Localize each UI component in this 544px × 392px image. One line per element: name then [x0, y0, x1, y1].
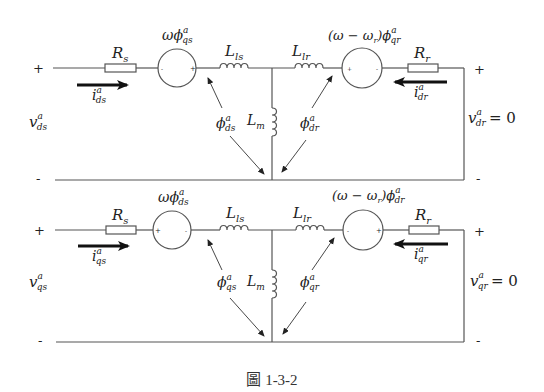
- stator-resistance-label: Rs: [111, 206, 128, 226]
- rotor-source-left-sign: +: [347, 65, 352, 72]
- stator-leakage-inductor: [220, 226, 248, 231]
- rotor-voltage-label: vaqr= 0: [470, 270, 518, 291]
- stator-flux-label: ϕaqs: [217, 272, 237, 292]
- stator-leakage-inductor: [220, 64, 248, 69]
- rotor-resistance-label: Rr: [414, 206, 432, 226]
- rotor-minus-terminal: -: [476, 333, 480, 348]
- stator-plus-terminal: +: [33, 61, 44, 76]
- rotor-resistance-label: Rr: [413, 44, 431, 64]
- stator-source-right-sign: +: [190, 65, 196, 73]
- rotor-minus-terminal: -: [476, 171, 480, 186]
- rotor-leakage-label: Llr: [291, 42, 311, 62]
- rotor-resistor: [409, 226, 439, 234]
- rotor-current-label: iaqr: [414, 244, 429, 264]
- rotor-leakage-label: Llr: [292, 204, 312, 224]
- stator-voltage-label: vaqs: [29, 271, 48, 292]
- stator-source-left-sign: +: [155, 227, 161, 235]
- rotor-plus-terminal: +: [474, 62, 485, 77]
- rotor-leakage-inductor: [295, 64, 323, 69]
- stator-current-label: iads: [92, 85, 107, 105]
- rotor-voltage-label: vadr= 0: [468, 107, 516, 128]
- magnetizing-inductor: [272, 108, 277, 136]
- magnetizing-inductance-label: Lm: [246, 112, 265, 131]
- rotor-flux-label: ϕadr: [300, 113, 320, 133]
- rotor-flux-label: ϕaqr: [300, 272, 320, 292]
- stator-leakage-label: Lls: [225, 204, 244, 224]
- rotor-source-right-sign: -: [376, 65, 378, 72]
- stator-flux-arrow-down: [230, 136, 264, 174]
- stator-resistor: [105, 64, 136, 72]
- stator-plus-terminal: +: [34, 223, 45, 238]
- rotor-flux-arrow-down: [283, 302, 306, 334]
- figure-caption: 圖 1-3-2: [0, 368, 544, 389]
- stator-flux-arrow-down: [230, 298, 264, 336]
- stator-source-label: ωϕads: [158, 187, 189, 207]
- stator-flux-arrow-up: [208, 240, 222, 270]
- magnetizing-inductor: [272, 270, 277, 298]
- rotor-source-right-sign: +: [376, 227, 382, 235]
- stator-minus-terminal: -: [36, 171, 40, 186]
- stator-leakage-label: Lls: [224, 42, 243, 62]
- stator-current-label: iaqs: [92, 246, 107, 266]
- stator-source-left-sign: -: [161, 65, 163, 72]
- rotor-source-label: (ω − ωr)ϕaqr: [328, 25, 401, 45]
- rotor-flux-arrow-down: [282, 140, 306, 172]
- stator-source-right-sign: -: [185, 227, 187, 234]
- equivalent-circuit-diagram: - + + - + - + - Rs ωϕaqs Lls Llr (ω − ωr…: [0, 0, 544, 392]
- rotor-flux-arrow-up: [312, 238, 334, 270]
- stator-flux-arrow-up: [208, 78, 222, 108]
- stator-source-label: ωϕaqs: [162, 25, 193, 45]
- q-axis-circuit: + - - + + - + - Rs ωϕads Lls Llr (ω − ωr…: [29, 185, 518, 348]
- stator-resistance-label: Rs: [111, 44, 128, 64]
- rotor-current-label: iadr: [414, 82, 429, 102]
- stator-voltage-label: vads: [29, 111, 48, 132]
- magnetizing-inductance-label: Lm: [246, 273, 265, 292]
- stator-minus-terminal: -: [38, 333, 42, 348]
- rotor-source-left-sign: -: [347, 227, 349, 234]
- rotor-flux-arrow-up: [312, 76, 332, 108]
- rotor-resistor: [408, 64, 438, 72]
- stator-resistor: [106, 226, 136, 234]
- stator-flux-label: ϕads: [216, 113, 236, 133]
- rotor-source-label: (ω − ωr)ϕadr: [332, 185, 405, 205]
- d-axis-circuit: - + + - + - + - Rs ωϕaqs Lls Llr (ω − ωr…: [29, 25, 516, 186]
- rotor-leakage-inductor: [296, 226, 324, 231]
- rotor-plus-terminal: +: [474, 224, 485, 239]
